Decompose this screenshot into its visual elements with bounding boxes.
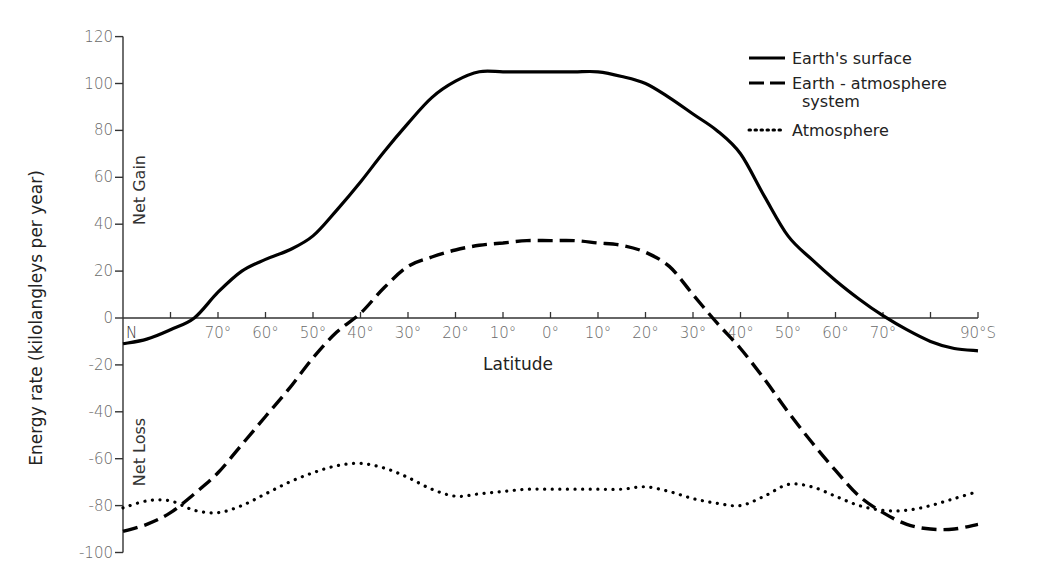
net-loss-label: Net Loss bbox=[130, 418, 149, 486]
x-axis: N70°60°50°40°30°20°10°0°10°20°30°40°50°6… bbox=[123, 312, 996, 342]
y-axis-title: Energy rate (kilolangleys per year) bbox=[26, 170, 46, 466]
y-tick-label: -80 bbox=[89, 497, 114, 515]
y-tick-label: 40 bbox=[94, 215, 113, 233]
y-tick-label: 100 bbox=[84, 75, 113, 93]
x-tick-label: 30° bbox=[395, 324, 422, 342]
x-tick-label: 0° bbox=[542, 324, 559, 342]
legend-label-earth-atmosphere: Earth - atmosphere bbox=[792, 74, 947, 93]
y-tick-label: -60 bbox=[89, 450, 114, 468]
y-tick-label: -40 bbox=[89, 403, 114, 421]
x-tick-label: 70° bbox=[205, 324, 232, 342]
y-tick-label: 120 bbox=[84, 28, 113, 46]
y-tick-label: 20 bbox=[94, 262, 113, 280]
x-tick-label: 60° bbox=[822, 324, 849, 342]
x-tick-label: 10° bbox=[490, 324, 517, 342]
net-gain-label: Net Gain bbox=[130, 155, 149, 225]
legend-label-atmosphere: Atmosphere bbox=[792, 121, 889, 140]
x-tick-label: 90°S bbox=[960, 324, 996, 342]
x-tick-label: 40° bbox=[347, 324, 374, 342]
x-tick-label: 30° bbox=[680, 324, 707, 342]
x-tick-label: 50° bbox=[300, 324, 327, 342]
series-earth-s-surface bbox=[123, 71, 978, 351]
y-tick-label: -100 bbox=[79, 544, 113, 562]
x-tick-label: 60° bbox=[252, 324, 279, 342]
x-tick-label: 10° bbox=[585, 324, 612, 342]
x-tick-label: 70° bbox=[870, 324, 897, 342]
x-tick-label: N bbox=[126, 324, 137, 342]
series-earth-atmosphere-system bbox=[123, 240, 978, 531]
x-tick-label: 20° bbox=[442, 324, 469, 342]
y-axis: 120100806040200-20-40-60-80-100 bbox=[79, 28, 123, 562]
x-axis-title: Latitude bbox=[483, 354, 553, 374]
y-tick-label: -20 bbox=[89, 356, 114, 374]
legend-label-earth-atmosphere-line2: system bbox=[802, 92, 860, 111]
legend: Earth's surface Earth - atmosphere syste… bbox=[749, 49, 947, 140]
legend-label-earth-surface: Earth's surface bbox=[792, 49, 912, 68]
x-tick-label: 50° bbox=[775, 324, 802, 342]
series-layer bbox=[123, 71, 978, 531]
y-tick-label: 80 bbox=[94, 121, 113, 139]
y-tick-label: 60 bbox=[94, 168, 113, 186]
energy-balance-chart: 120100806040200-20-40-60-80-100 N70°60°5… bbox=[0, 0, 1040, 579]
y-tick-label: 0 bbox=[103, 309, 113, 327]
x-tick-label: 20° bbox=[632, 324, 659, 342]
